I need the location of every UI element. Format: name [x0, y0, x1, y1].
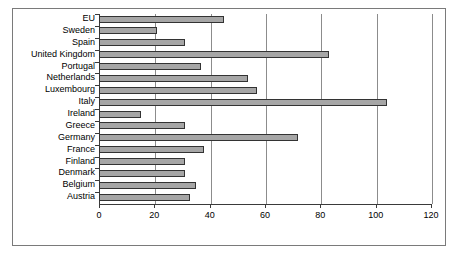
- category-label: Sweden: [0, 25, 95, 36]
- bar: [99, 122, 185, 129]
- bar: [99, 16, 224, 23]
- x-tick-80: [320, 204, 321, 208]
- bar: [99, 51, 329, 58]
- bar: [99, 111, 141, 118]
- bar: [99, 134, 298, 141]
- category-label: Austria: [0, 191, 95, 202]
- bar: [99, 182, 196, 189]
- bar: [99, 170, 185, 177]
- x-tick-label: 80: [300, 210, 340, 220]
- category-label: Ireland: [0, 108, 95, 119]
- category-label: EU: [0, 13, 95, 24]
- bar: [99, 27, 157, 34]
- bar: [99, 39, 185, 46]
- bar-chart: EUSwedenSpainUnited KingdomPortugalNethe…: [0, 0, 459, 255]
- x-tick-label: 0: [79, 210, 119, 220]
- category-label: Italy: [0, 96, 95, 107]
- x-tick-20: [154, 204, 155, 208]
- x-tick-40: [210, 204, 211, 208]
- category-label: Greece: [0, 120, 95, 131]
- category-label: Belgium: [0, 179, 95, 190]
- bar: [99, 63, 201, 70]
- category-label: Germany: [0, 132, 95, 143]
- x-tick-label: 40: [190, 210, 230, 220]
- x-tick-100: [376, 204, 377, 208]
- category-label: Netherlands: [0, 72, 95, 83]
- x-tick-label: 100: [356, 210, 396, 220]
- bar-rows: EUSwedenSpainUnited KingdomPortugalNethe…: [0, 14, 459, 204]
- bar: [99, 194, 190, 201]
- bar: [99, 146, 204, 153]
- bar: [99, 87, 257, 94]
- x-tick-120: [431, 204, 432, 208]
- category-label: France: [0, 144, 95, 155]
- category-label: United Kingdom: [0, 49, 95, 60]
- category-label: Luxembourg: [0, 84, 95, 95]
- x-tick-label: 20: [134, 210, 174, 220]
- category-label: Portugal: [0, 61, 95, 72]
- bar-row: Austria: [0, 192, 459, 204]
- bar: [99, 99, 387, 106]
- bar: [99, 75, 248, 82]
- x-tick-label: 60: [245, 210, 285, 220]
- category-label: Finland: [0, 156, 95, 167]
- x-tick-label: 120: [411, 210, 451, 220]
- bar: [99, 158, 185, 165]
- x-tick-0: [99, 204, 100, 208]
- category-label: Denmark: [0, 167, 95, 178]
- x-tick-60: [265, 204, 266, 208]
- category-label: Spain: [0, 37, 95, 48]
